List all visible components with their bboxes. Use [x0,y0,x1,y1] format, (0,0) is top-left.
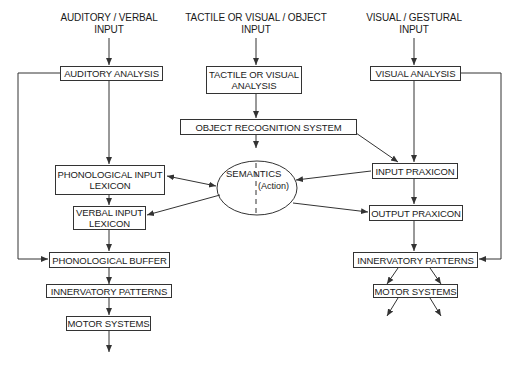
phonological-buffer-box: PHONOLOGICAL BUFFER [49,252,170,268]
semantics-action-label: (Action) [258,181,289,191]
arrow-inn-motor-l [387,268,398,284]
input-praxicon-box: INPUT PRAXICON [372,163,458,179]
arrow-sem-op [293,203,368,212]
visual-analysis-box: VISUAL ANALYSIS [370,66,461,81]
tactile-visual-analysis-box: TACTILE OR VISUAL ANALYSIS [206,66,302,94]
gestural-input-title: VISUAL / GESTURAL INPUT [364,12,464,36]
arrow-motor-out-r [430,298,441,316]
arrow-sem-vil [147,195,220,215]
arrow-va-inn [461,73,501,259]
arrow-motor-out-l [387,298,398,316]
object-recognition-box: OBJECT RECOGNITION SYSTEM [180,119,357,135]
arrow-inn-motor-r [430,268,441,284]
output-praxicon-box: OUTPUT PRAXICON [369,205,463,221]
object-input-title: TACTILE OR VISUAL / OBJECT INPUT [181,12,331,36]
semantics-label: SEMANTICS [226,168,281,179]
motor-systems-right-box: MOTOR SYSTEMS [373,284,458,298]
arrow-ip-sem [296,171,371,180]
arrow-aa-buffer [18,73,60,259]
innervatory-patterns-left-box: INNERVATORY PATTERNS [46,284,172,298]
motor-systems-left-box: MOTOR SYSTEMS [66,316,151,331]
arrow-ors-ip [356,133,398,162]
auditory-input-title: AUDITORY / VERBAL INPUT [59,12,159,36]
innervatory-patterns-right-box: INNERVATORY PATTERNS [353,252,478,268]
arrow-pil-sem [167,176,216,186]
verbal-input-lexicon-box: VERBAL INPUT LEXICON [73,206,146,230]
auditory-analysis-box: AUDITORY ANALYSIS [60,66,163,81]
phonological-input-lexicon-box: PHONOLOGICAL INPUT LEXICON [55,165,165,195]
